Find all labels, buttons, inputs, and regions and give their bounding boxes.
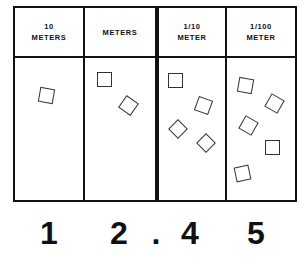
column-ones: METERS xyxy=(85,8,155,200)
header-line: METER xyxy=(246,32,275,43)
digit-hundredths: 5 xyxy=(236,215,276,251)
header-line: 1/10 xyxy=(184,21,201,32)
square-icon xyxy=(97,72,112,87)
header-line: 1/100 xyxy=(250,21,272,32)
digit-tens: 1 xyxy=(29,215,69,251)
square-icon xyxy=(168,119,188,139)
header-line: METERS xyxy=(103,27,138,38)
column-body-ones xyxy=(85,58,155,200)
digit-ones: 2 xyxy=(99,215,139,251)
column-header-ones: METERS xyxy=(85,8,155,58)
place-value-chart: 10 METERS METERS 1/10 METER xyxy=(13,6,297,202)
square-icon xyxy=(168,73,183,88)
column-header-hundredths: 1/100 METER xyxy=(227,8,295,58)
column-body-hundredths xyxy=(227,58,295,200)
column-tenths: 1/10 METER xyxy=(159,8,225,200)
square-icon xyxy=(238,115,258,135)
digit-tenths: 4 xyxy=(170,215,210,251)
column-body-tens xyxy=(15,58,83,200)
header-line: 10 xyxy=(44,21,54,32)
square-icon xyxy=(196,133,216,153)
square-icon xyxy=(118,95,139,116)
square-icon xyxy=(234,165,252,183)
square-icon xyxy=(237,77,254,94)
column-header-tenths: 1/10 METER xyxy=(159,8,225,58)
square-icon xyxy=(194,96,213,115)
column-header-tens: 10 METERS xyxy=(15,8,83,58)
decimal-point: . xyxy=(149,215,163,251)
square-icon xyxy=(264,93,284,113)
header-line: METER xyxy=(177,32,206,43)
square-icon xyxy=(265,140,280,155)
column-body-tenths xyxy=(159,58,225,200)
square-icon xyxy=(38,87,55,104)
column-tens: 10 METERS xyxy=(15,8,83,200)
header-line: METERS xyxy=(32,32,67,43)
column-hundredths: 1/100 METER xyxy=(227,8,295,200)
